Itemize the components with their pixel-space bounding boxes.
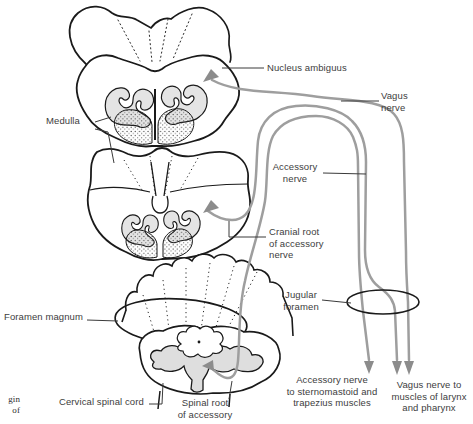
diagram-artwork [0, 0, 473, 424]
label-vagus-destination: Vagus nerve to muscles of larynx and pha… [385, 379, 473, 414]
label-cervical-spinal-cord: Cervical spinal cord [59, 396, 144, 408]
label-spinal-root: Spinal root of accessory [168, 397, 242, 420]
leader-cervical-cord [149, 383, 163, 404]
label-accessory-nerve: Accessory nerve [268, 161, 322, 184]
upper-medulla-section [77, 55, 240, 146]
label-nucleus-ambiguus: Nucleus ambiguus [267, 62, 347, 74]
central-canal-dot [198, 341, 201, 344]
accessory-terminal-arrowhead [364, 361, 374, 374]
lower-medulla-section [88, 148, 250, 260]
label-foramen-magnum: Foramen magnum [4, 311, 83, 323]
caption-text-fragment: gin of [0, 394, 20, 416]
label-medulla: Medulla [46, 115, 80, 127]
label-accessory-destination: Accessory nerve to sternomastoid and tra… [283, 374, 381, 409]
vagus-terminal-arrowhead-2 [404, 361, 414, 375]
vagus-terminal-arrowhead-1 [392, 361, 402, 375]
label-vagus-nerve: Vagus nerve [381, 90, 408, 113]
surface-striation-lines [118, 14, 192, 62]
anatomy-diagram: Nucleus ambiguus Vagus nerve Medulla Acc… [0, 0, 473, 424]
label-cranial-root: Cranial root of accessory nerve [269, 226, 324, 261]
label-jugular-foramen: Jugular foramen [276, 289, 326, 312]
leader-accessory-nerve [323, 173, 366, 174]
leader-foramen-magnum [87, 320, 118, 321]
